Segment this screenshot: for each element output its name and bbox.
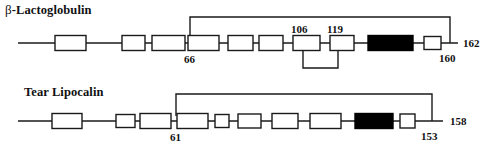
row-title-tear-lipocalin-text: Tear Lipocalin	[24, 85, 104, 99]
residue-label-61: 61	[170, 131, 181, 143]
structure-box	[272, 114, 298, 129]
residue-label-162: 162	[463, 37, 480, 49]
structure-box	[293, 36, 320, 51]
structure-box	[177, 114, 208, 129]
structure-box	[188, 36, 219, 51]
structure-box	[259, 36, 283, 51]
structure-box	[400, 114, 415, 128]
structure-box	[310, 114, 341, 129]
structure-box	[122, 36, 145, 51]
structure-box	[55, 36, 86, 51]
row-title-beta-lactoglobulin-text: -Lactoglobulin	[12, 3, 92, 17]
structure-box	[238, 114, 261, 128]
structure-box	[116, 115, 135, 128]
diagram-canvas	[0, 0, 489, 155]
residue-label-106: 106	[291, 23, 308, 35]
structure-box	[330, 36, 354, 51]
residue-label-153: 153	[421, 130, 438, 142]
structure-box-filled	[368, 36, 413, 51]
row-title-beta-lactoglobulin: β-Lactoglobulin	[5, 2, 92, 18]
structure-box	[424, 37, 441, 50]
structure-box	[140, 114, 171, 129]
structure-box	[215, 115, 229, 128]
row-beta-lactoglobulin	[18, 17, 458, 68]
residue-label-66: 66	[184, 53, 195, 65]
residue-label-160: 160	[439, 52, 456, 64]
structure-box	[52, 114, 82, 129]
structure-box-filled	[355, 114, 393, 129]
structure-box	[152, 36, 185, 51]
protein-domain-diagram: β-Lactoglobulin 66 106 119 160 162 Tear …	[0, 0, 489, 155]
structure-box	[228, 36, 253, 51]
residue-label-158: 158	[450, 115, 467, 127]
row-title-tear-lipocalin: Tear Lipocalin	[24, 84, 104, 100]
residue-label-119: 119	[327, 23, 343, 35]
greek-beta-glyph: β	[5, 2, 12, 17]
